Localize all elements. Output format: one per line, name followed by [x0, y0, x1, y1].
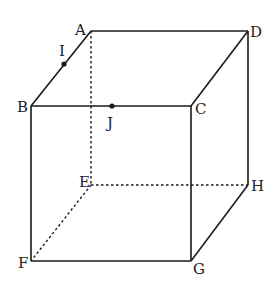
label-E: E	[79, 173, 90, 191]
point-J	[109, 103, 114, 108]
edge-GH	[191, 185, 248, 261]
label-F: F	[18, 254, 28, 272]
label-I: I	[59, 42, 65, 60]
label-D: D	[250, 23, 262, 41]
cube-diagram: A B C D E F G H I J	[0, 0, 280, 287]
label-A: A	[74, 21, 86, 39]
hidden-edge-EF	[31, 185, 91, 261]
label-J: J	[105, 114, 113, 132]
point-I	[61, 61, 66, 66]
label-G: G	[193, 260, 205, 278]
label-H: H	[251, 177, 264, 195]
edge-CD	[191, 31, 248, 106]
label-C: C	[195, 100, 206, 118]
label-B: B	[17, 98, 28, 116]
